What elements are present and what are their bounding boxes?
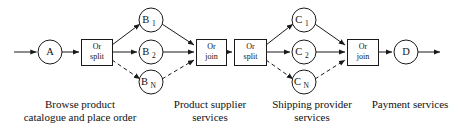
node-cn-sub: N bbox=[304, 80, 310, 89]
node-c2[interactable]: C 2 bbox=[292, 40, 316, 64]
gate-or-split-2-line2: split bbox=[244, 52, 259, 61]
node-bn-sub: N bbox=[151, 80, 157, 89]
node-c1[interactable]: C 1 bbox=[292, 8, 316, 32]
gate-or-split-2[interactable]: Or split bbox=[235, 40, 267, 66]
node-d-label: D bbox=[402, 46, 410, 57]
gate-or-join-2[interactable]: Or join bbox=[348, 40, 379, 66]
node-b2-sub: 2 bbox=[152, 50, 156, 59]
gate-or-join-1-line2: join bbox=[204, 52, 217, 61]
gate-or-join-2-line2: join bbox=[356, 52, 369, 61]
workflow-diagram: Or split Or join Or split Or join bbox=[0, 0, 459, 129]
node-bn[interactable]: B N bbox=[139, 70, 163, 94]
svg-text:A: A bbox=[46, 46, 54, 57]
node-b1-label: B bbox=[142, 14, 149, 25]
gate-or-join-1-line1: Or bbox=[207, 42, 216, 51]
svg-text:D: D bbox=[402, 46, 410, 57]
node-d[interactable]: D bbox=[394, 40, 418, 64]
node-bn-label: B bbox=[141, 76, 148, 87]
gate-or-split-1-line2: split bbox=[90, 52, 105, 61]
node-b2[interactable]: B 2 bbox=[139, 40, 163, 64]
node-cn-label: C bbox=[294, 76, 301, 87]
edge-split2-to-cn bbox=[266, 60, 293, 79]
gate-or-split-1-line1: Or bbox=[93, 42, 102, 51]
node-a[interactable]: A bbox=[38, 40, 62, 64]
gate-or-split-1[interactable]: Or split bbox=[82, 40, 113, 66]
node-a-label: A bbox=[46, 46, 54, 57]
edge-b1-to-join1 bbox=[162, 24, 194, 45]
gate-or-split-2-line1: Or bbox=[246, 42, 255, 51]
caption-shipping-provider: Shipping provider services bbox=[252, 98, 372, 123]
edge-cn-to-join2 bbox=[315, 60, 345, 79]
node-c1-sub: 1 bbox=[305, 18, 309, 27]
node-b1[interactable]: B 1 bbox=[139, 8, 163, 32]
node-c1-label: C bbox=[295, 14, 302, 25]
edge-split1-to-bn bbox=[112, 60, 140, 79]
caption-browse-product: Browse product catalogue and place order bbox=[0, 98, 160, 123]
gate-or-join-2-line1: Or bbox=[359, 42, 368, 51]
caption-payment-services: Payment services bbox=[362, 98, 458, 111]
edge-bn-to-join1 bbox=[162, 60, 194, 79]
node-c2-sub: 2 bbox=[305, 50, 309, 59]
node-b2-label: B bbox=[142, 46, 149, 57]
gate-or-join-1[interactable]: Or join bbox=[197, 40, 227, 66]
edge-split1-to-b1 bbox=[112, 24, 140, 45]
edge-c1-to-join2 bbox=[315, 24, 345, 45]
edge-split2-to-c1 bbox=[266, 24, 293, 45]
node-cn[interactable]: C N bbox=[292, 70, 316, 94]
node-b1-sub: 1 bbox=[152, 18, 156, 27]
node-c2-label: C bbox=[295, 46, 302, 57]
